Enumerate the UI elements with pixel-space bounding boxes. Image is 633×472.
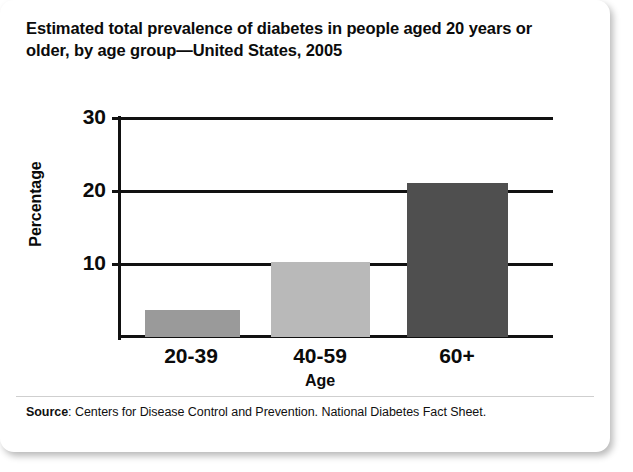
y-axis-title: Percentage	[27, 129, 45, 279]
y-axis-tick-10	[112, 263, 126, 266]
source-note: Source: Centers for Disease Control and …	[26, 405, 586, 419]
x-axis-tick-label-40-59: 40-59	[255, 344, 385, 368]
x-axis-tick-label-20-39: 20-39	[126, 344, 256, 368]
y-axis-tick-30	[112, 117, 126, 120]
y-axis-line	[118, 116, 121, 340]
y-axis-tick-20	[112, 190, 126, 193]
bar-20-39	[145, 310, 240, 337]
plot-area	[125, 113, 553, 337]
y-axis-tick-label-10: 10	[60, 251, 106, 275]
source-text: : Centers for Disease Control and Preven…	[68, 405, 486, 419]
bar-60-plus	[407, 183, 508, 337]
x-axis-title: Age	[255, 372, 385, 390]
chart-title: Estimated total prevalence of diabetes i…	[26, 18, 571, 62]
source-label: Source	[26, 405, 68, 419]
footer-divider	[16, 396, 594, 397]
y-axis-tick-label-20: 20	[60, 178, 106, 202]
x-axis-tick-label-60-plus: 60+	[392, 344, 522, 368]
gridline-30	[125, 117, 553, 120]
bar-40-59	[271, 262, 370, 337]
y-axis-tick-label-30: 30	[60, 105, 106, 129]
figure-card: Estimated total prevalence of diabetes i…	[0, 0, 610, 452]
